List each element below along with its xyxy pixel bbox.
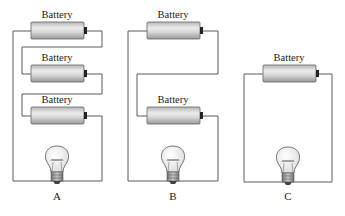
battery-a1 — [31, 22, 87, 39]
battery-a3 — [31, 107, 87, 124]
battery-a2 — [31, 65, 87, 82]
battery-c1 — [263, 65, 319, 82]
battery-b1 — [147, 22, 203, 39]
bulb-b-icon — [161, 146, 184, 184]
caption-a: A — [53, 190, 61, 202]
caption-b: B — [169, 190, 176, 202]
circuit-a: Battery Battery Battery A — [13, 9, 102, 202]
circuit-c: Battery C — [244, 52, 332, 202]
battery-c1-label: Battery — [274, 52, 306, 63]
bulb-c-icon — [276, 147, 299, 185]
battery-a1-label: Battery — [42, 9, 74, 20]
bulb-a-icon — [45, 146, 68, 184]
battery-a2-label: Battery — [42, 52, 74, 63]
battery-a3-label: Battery — [42, 94, 74, 105]
battery-b2-label: Battery — [158, 94, 190, 105]
battery-b1-label: Battery — [158, 9, 190, 20]
circuit-b: Battery Battery B — [128, 9, 218, 202]
battery-b2 — [147, 107, 203, 124]
circuit-diagram: Battery Battery Battery A Battery Batter… — [0, 0, 345, 216]
caption-c: C — [284, 190, 291, 202]
